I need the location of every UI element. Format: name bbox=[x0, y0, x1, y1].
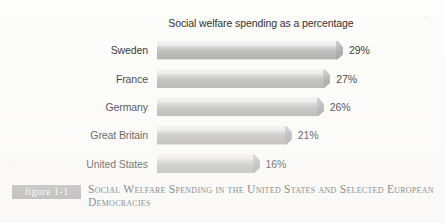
category-label: Sweden bbox=[0, 44, 148, 56]
bar-row: France 27% bbox=[0, 64, 445, 92]
value-label: 16% bbox=[266, 158, 287, 170]
bar-body bbox=[157, 126, 292, 145]
value-label: 26% bbox=[330, 101, 351, 113]
figure-caption-block: figure 1-1 Social Welfare Spending in th… bbox=[0, 182, 445, 223]
bar-row: Germany 26% bbox=[0, 93, 445, 121]
figure-page: Social welfare spending as a percentage … bbox=[0, 0, 445, 223]
bar-body bbox=[157, 41, 343, 60]
bar-france bbox=[157, 69, 330, 88]
bar-sweden bbox=[157, 41, 343, 60]
value-label: 21% bbox=[298, 129, 319, 141]
bar-great-britain bbox=[157, 126, 292, 145]
bar-germany bbox=[157, 97, 324, 116]
bar-body bbox=[157, 97, 324, 116]
bar-body bbox=[157, 154, 260, 173]
category-label: United States bbox=[0, 158, 148, 170]
category-label: Germany bbox=[0, 101, 148, 113]
bar-chart-plot-area: Sweden 29% France 27% Germany bbox=[0, 36, 445, 178]
value-label: 27% bbox=[336, 73, 357, 85]
bar-row: Sweden 29% bbox=[0, 36, 445, 64]
bar-united-states bbox=[157, 154, 260, 173]
category-label: France bbox=[0, 73, 148, 85]
bar-body bbox=[157, 69, 330, 88]
chart-title-line-1: Social welfare spending as a percentage bbox=[168, 17, 353, 29]
bar-row: United States 16% bbox=[0, 150, 445, 178]
bar-row: Great Britain 21% bbox=[0, 121, 445, 149]
value-label: 29% bbox=[349, 44, 370, 56]
figure-number-badge: figure 1-1 bbox=[12, 185, 81, 199]
figure-caption-text: Social Welfare Spending in the United St… bbox=[88, 183, 440, 209]
category-label: Great Britain bbox=[0, 129, 148, 141]
